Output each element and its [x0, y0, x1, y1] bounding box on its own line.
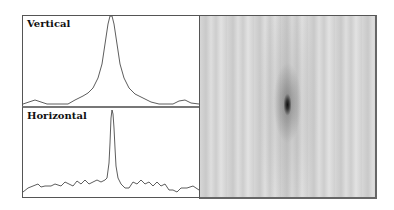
horizontal-profile-panel: Horizontal [22, 106, 200, 198]
intensity-heatmap [200, 16, 375, 197]
vertical-profile-curve [23, 16, 199, 106]
vertical-profile-panel: Vertical [22, 15, 200, 107]
vertical-label: Vertical [27, 18, 70, 29]
horizontal-label: Horizontal [27, 110, 87, 121]
intensity-map-panel [199, 15, 377, 199]
horizontal-profile-curve [23, 108, 199, 196]
